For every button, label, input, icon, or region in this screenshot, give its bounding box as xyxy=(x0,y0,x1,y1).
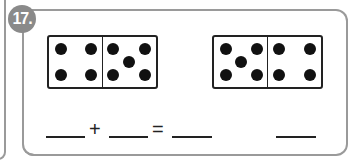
pip xyxy=(85,43,97,55)
pip xyxy=(304,69,316,81)
pip xyxy=(251,43,263,55)
problem-box-left-edge xyxy=(22,18,34,156)
previous-problem-border xyxy=(0,0,6,160)
answer-blank[interactable] xyxy=(276,136,316,138)
addend-2-blank[interactable] xyxy=(109,136,148,138)
pip xyxy=(273,69,285,81)
sum-blank[interactable] xyxy=(172,136,212,138)
domino-1 xyxy=(47,35,158,89)
addend-1-blank[interactable] xyxy=(46,136,85,138)
pip xyxy=(235,56,247,68)
pip xyxy=(107,69,119,81)
pip xyxy=(107,43,119,55)
pip xyxy=(139,69,151,81)
problem-number-badge: 17. xyxy=(8,5,36,33)
domino-1-right-half-five xyxy=(102,37,156,87)
pip xyxy=(220,69,232,81)
pip xyxy=(304,43,316,55)
equals-sign: = xyxy=(152,118,164,141)
pip xyxy=(55,69,67,81)
pip xyxy=(251,69,263,81)
domino-2 xyxy=(212,35,323,89)
pip xyxy=(123,56,135,68)
pip xyxy=(139,43,151,55)
domino-1-left-half-four xyxy=(49,37,102,87)
pip xyxy=(220,43,232,55)
pip xyxy=(273,43,285,55)
plus-sign: + xyxy=(89,118,101,141)
domino-2-right-half-four xyxy=(267,37,321,87)
domino-2-left-half-five xyxy=(214,37,267,87)
pip xyxy=(55,43,67,55)
pip xyxy=(85,69,97,81)
